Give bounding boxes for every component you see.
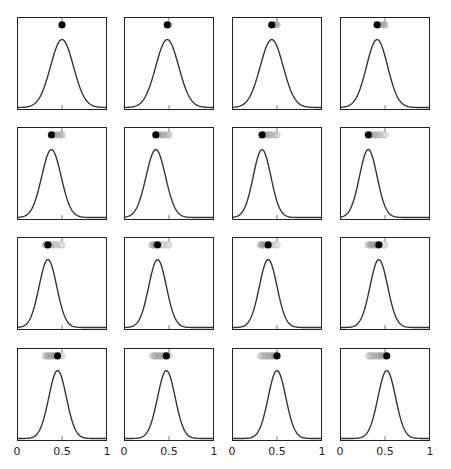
- density-panel: [17, 237, 107, 330]
- small-multiples-grid: 00.5100.5100.5100.51: [0, 0, 451, 469]
- density-curve: [233, 150, 321, 218]
- density-curve: [233, 40, 321, 108]
- current-mean-marker: [376, 242, 383, 249]
- density-curve: [18, 150, 106, 218]
- current-mean-marker: [374, 22, 381, 29]
- density-panel: [17, 127, 107, 220]
- x-tick-label: 1: [319, 445, 326, 458]
- density-panel: [17, 348, 107, 441]
- density-curve: [233, 371, 321, 439]
- density-panel: [124, 17, 214, 110]
- density-curve: [341, 150, 429, 218]
- density-panel: [340, 237, 430, 330]
- x-tick-label: 0.5: [53, 445, 71, 458]
- density-panel: [232, 348, 322, 441]
- x-tick-label: 0.5: [160, 445, 178, 458]
- current-mean-marker: [265, 242, 272, 249]
- current-mean-marker: [152, 132, 159, 139]
- density-panel: [124, 127, 214, 220]
- current-mean-marker: [259, 132, 266, 139]
- current-mean-marker: [163, 353, 170, 360]
- x-tick-label: 0: [337, 445, 344, 458]
- current-mean-marker: [164, 22, 171, 29]
- density-curve: [125, 40, 213, 108]
- x-tick-label: 0: [229, 445, 236, 458]
- density-panel: [232, 127, 322, 220]
- current-mean-marker: [365, 132, 372, 139]
- current-mean-marker: [383, 353, 390, 360]
- density-panel: [232, 237, 322, 330]
- x-tick-label: 0.5: [376, 445, 394, 458]
- density-panel: [124, 348, 214, 441]
- density-curve: [18, 40, 106, 108]
- density-curve: [341, 40, 429, 108]
- density-panel: [340, 17, 430, 110]
- density-panel: [124, 237, 214, 330]
- density-panel: [340, 127, 430, 220]
- x-tick-label: 1: [104, 445, 111, 458]
- x-tick-label: 0: [14, 445, 21, 458]
- density-curve: [18, 260, 106, 328]
- density-curve: [125, 260, 213, 328]
- density-panel: [17, 17, 107, 110]
- current-mean-marker: [274, 353, 281, 360]
- density-curve: [341, 371, 429, 439]
- x-tick-label: 1: [427, 445, 434, 458]
- density-curve: [18, 371, 106, 439]
- current-mean-marker: [45, 242, 52, 249]
- density-curve: [233, 260, 321, 328]
- current-mean-marker: [48, 132, 55, 139]
- density-curve: [125, 371, 213, 439]
- x-tick-label: 0.5: [268, 445, 286, 458]
- density-panel: [232, 17, 322, 110]
- current-mean-marker: [268, 22, 275, 29]
- current-mean-marker: [154, 242, 161, 249]
- density-panel: [340, 348, 430, 441]
- density-curve: [125, 150, 213, 218]
- x-tick-label: 1: [211, 445, 218, 458]
- x-tick-label: 0: [121, 445, 128, 458]
- current-mean-marker: [54, 353, 61, 360]
- density-curve: [341, 260, 429, 328]
- current-mean-marker: [59, 22, 66, 29]
